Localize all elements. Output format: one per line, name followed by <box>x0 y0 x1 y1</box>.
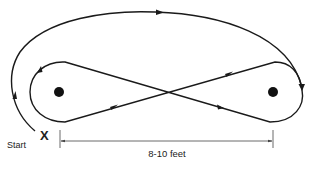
dimension-label: 8-10 feet <box>148 148 186 159</box>
figure-eight-path <box>30 62 303 122</box>
start-label: Start <box>7 140 27 150</box>
start-marker-x: X <box>40 128 49 143</box>
outer-arc-arrow-top <box>156 10 164 16</box>
loop-arrow-left-top <box>37 66 43 73</box>
right-cone-dot <box>268 87 278 97</box>
figure-eight-diagram: X Start 8-10 feet <box>0 0 311 171</box>
left-cone-dot <box>54 87 64 97</box>
outer-arc-path <box>12 12 302 131</box>
